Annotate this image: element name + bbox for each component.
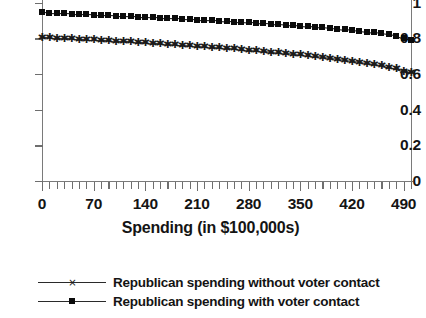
x-tick	[345, 182, 346, 189]
x-tick-label: 70	[71, 195, 117, 212]
square-data-marker	[216, 18, 222, 24]
y-tick-label: 1	[387, 0, 421, 10]
x-tick	[249, 182, 250, 191]
chart-legend: × Republican spending without voter cont…	[30, 270, 421, 318]
square-data-marker	[371, 29, 377, 35]
square-data-marker	[128, 13, 134, 19]
x-tick	[116, 182, 117, 189]
square-data-marker	[268, 21, 274, 27]
x-tick	[396, 182, 397, 189]
square-data-marker	[61, 10, 67, 16]
x-tick	[131, 182, 132, 189]
x-tick-label: 490	[381, 195, 426, 212]
square-data-marker	[69, 11, 75, 17]
x-tick	[278, 182, 279, 189]
square-data-marker	[157, 15, 163, 21]
square-data-marker	[260, 20, 266, 26]
x-tick	[315, 182, 316, 189]
x-tick	[234, 182, 235, 189]
square-data-marker	[54, 10, 60, 16]
square-data-marker	[135, 14, 141, 20]
x-tick	[404, 182, 405, 191]
square-data-marker	[393, 33, 399, 39]
square-data-marker	[312, 24, 318, 30]
square-data-marker	[113, 13, 119, 19]
x-tick	[197, 182, 198, 191]
x-tick	[138, 182, 139, 189]
square-data-marker	[142, 14, 148, 20]
square-data-marker	[364, 29, 370, 35]
x-tick	[108, 182, 109, 189]
x-tick	[153, 182, 154, 189]
x-tick	[145, 182, 146, 191]
x-tick	[182, 182, 183, 189]
x-tick	[241, 182, 242, 189]
square-data-marker	[120, 13, 126, 19]
square-data-marker	[275, 21, 281, 27]
square-data-marker	[297, 23, 303, 29]
x-tick-label: 350	[277, 195, 323, 212]
square-data-marker	[290, 22, 296, 28]
x-tick	[57, 182, 58, 189]
square-data-marker	[408, 37, 414, 43]
legend-item-label: Republican spending without voter contac…	[113, 273, 380, 292]
y-tick	[35, 145, 43, 146]
cross-data-marker: ✱	[407, 68, 416, 77]
x-tick	[79, 182, 80, 189]
x-tick	[167, 182, 168, 189]
square-data-marker	[401, 35, 407, 41]
square-data-marker	[187, 16, 193, 22]
square-data-marker	[179, 16, 185, 22]
square-data-marker	[164, 15, 170, 21]
square-data-marker	[150, 14, 156, 20]
x-tick	[411, 182, 412, 189]
y-tick-label: 0.4	[387, 102, 421, 117]
legend-item-label: Republican spending with voter contact	[113, 292, 359, 311]
x-tick	[49, 182, 50, 189]
x-tick	[219, 182, 220, 189]
y-tick-label: 0.2	[387, 137, 421, 152]
x-tick	[352, 182, 353, 191]
x-tick	[367, 182, 368, 189]
x-tick	[381, 182, 382, 189]
x-tick	[94, 182, 95, 191]
square-data-marker	[83, 11, 89, 17]
square-data-marker	[246, 19, 252, 25]
x-tick-label: 420	[329, 195, 375, 212]
x-tick	[204, 182, 205, 189]
square-data-marker	[319, 24, 325, 30]
x-tick	[101, 182, 102, 189]
square-data-marker	[349, 27, 355, 33]
x-tick	[374, 182, 375, 189]
x-tick	[123, 182, 124, 189]
square-data-marker	[253, 20, 259, 26]
x-tick	[64, 182, 65, 189]
square-data-marker	[39, 9, 45, 15]
y-tick	[35, 74, 43, 75]
square-data-marker	[334, 26, 340, 32]
x-tick	[359, 182, 360, 189]
x-tick	[256, 182, 257, 189]
x-tick	[286, 182, 287, 189]
x-tick	[337, 182, 338, 189]
x-axis-title: Spending (in $100,000s)	[0, 219, 421, 237]
right-spine-line	[411, 0, 412, 182]
x-tick	[227, 182, 228, 189]
x-tick-label: 0	[19, 195, 65, 212]
x-tick	[190, 182, 191, 189]
square-data-marker	[238, 19, 244, 25]
square-data-marker	[283, 22, 289, 28]
legend-item-with-voter-contact[interactable]: Republican spending with voter contact	[30, 292, 421, 312]
x-tick	[322, 182, 323, 189]
legend-item-without-voter-contact[interactable]: × Republican spending without voter cont…	[30, 273, 421, 293]
square-data-marker	[91, 12, 97, 18]
x-tick	[271, 182, 272, 189]
square-data-marker	[356, 28, 362, 34]
square-data-marker	[378, 30, 384, 36]
x-tick	[86, 182, 87, 189]
y-axis-line	[42, 0, 43, 182]
x-tick-label: 280	[226, 195, 272, 212]
square-data-marker	[46, 10, 52, 16]
square-data-marker	[231, 19, 237, 25]
